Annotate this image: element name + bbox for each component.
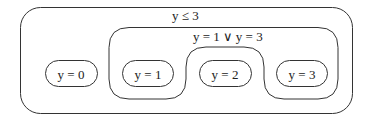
node-y2-label: y = 2 [212, 68, 239, 81]
node-y3-label: y = 3 [289, 68, 316, 81]
venn-diagram: y ≤ 3 y = 1 ∨ y = 3 y = 0 y = 1 y = 2 y … [0, 0, 371, 121]
node-y0-label: y = 0 [58, 68, 85, 81]
node-y1-label: y = 1 [135, 68, 162, 81]
inner-region-label: y = 1 ∨ y = 3 [193, 30, 263, 43]
outer-region-label: y ≤ 3 [172, 9, 199, 22]
